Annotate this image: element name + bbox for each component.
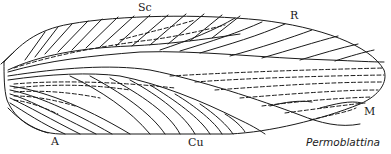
label-m: M xyxy=(364,106,375,117)
label-r: R xyxy=(290,10,298,21)
label-cu: Cu xyxy=(188,137,204,148)
wing-venation-diagram xyxy=(0,0,391,154)
species-title: Permoblattina xyxy=(306,137,380,148)
label-sc: Sc xyxy=(138,2,152,13)
label-a: A xyxy=(51,136,59,147)
